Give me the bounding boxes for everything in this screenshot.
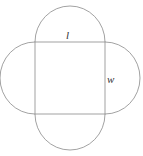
- top-semicircle: [35, 6, 105, 42]
- rectangle: [35, 42, 105, 114]
- length-label: l: [66, 29, 69, 41]
- diagram-canvas: l w: [0, 0, 143, 156]
- bottom-semicircle: [35, 114, 105, 150]
- left-semicircle: [0, 42, 35, 114]
- width-label: w: [107, 73, 115, 85]
